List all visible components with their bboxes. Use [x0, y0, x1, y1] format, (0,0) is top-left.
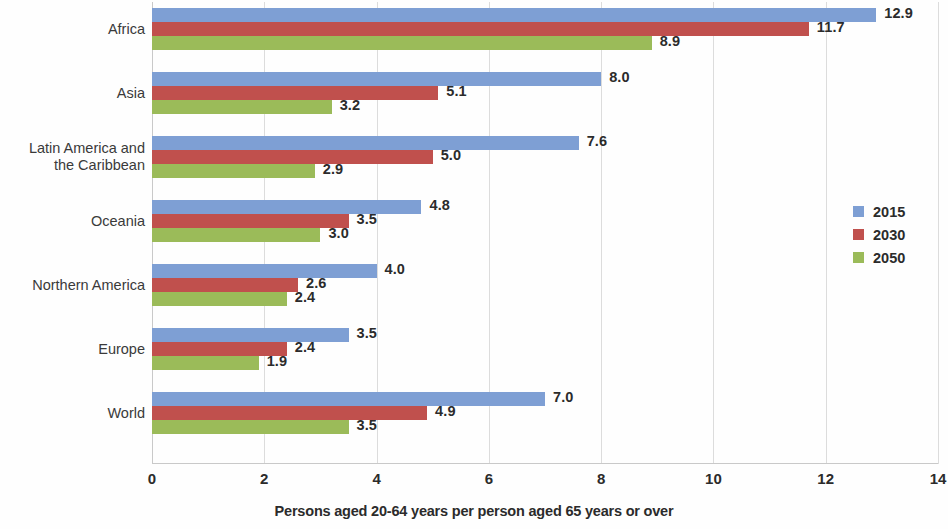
bar-value-label: 3.0 [328, 225, 348, 241]
bar-group: 7.04.93.5 [152, 392, 938, 434]
bar-2050 [152, 292, 287, 306]
legend-item: 2050 [853, 246, 905, 269]
x-tick-14: 14 [930, 470, 947, 487]
x-tick-2: 2 [260, 470, 268, 487]
bar-value-label: 3.5 [357, 211, 377, 227]
bar-2015 [152, 392, 545, 406]
bar-value-label: 8.9 [660, 33, 680, 49]
category-label: Asia [0, 85, 145, 102]
bar-value-label: 5.1 [446, 83, 466, 99]
bar-row: 3.5 [152, 214, 938, 228]
bar-value-label: 4.9 [435, 403, 455, 419]
bar-value-label: 8.0 [609, 69, 629, 85]
bar-value-label: 7.0 [553, 389, 573, 405]
x-tick-10: 10 [705, 470, 722, 487]
category-label: Europe [0, 341, 145, 358]
bar-row: 4.0 [152, 264, 938, 278]
bar-row: 8.9 [152, 36, 938, 50]
bar-2050 [152, 420, 349, 434]
category-label: Latin America and the Caribbean [0, 140, 145, 174]
bar-value-label: 7.6 [587, 133, 607, 149]
bar-2050 [152, 100, 332, 114]
bar-2015 [152, 264, 377, 278]
bar-value-label: 11.7 [817, 19, 845, 35]
bar-value-label: 4.0 [385, 261, 405, 277]
bar-2015 [152, 328, 349, 342]
bar-2030 [152, 22, 809, 36]
legend-label: 2015 [873, 204, 905, 220]
bar-row: 7.0 [152, 392, 938, 406]
legend-swatch-icon [853, 252, 864, 263]
bar-group: 3.52.41.9 [152, 328, 938, 370]
bar-value-label: 4.8 [429, 197, 449, 213]
bar-value-label: 1.9 [267, 353, 287, 369]
bar-value-label: 3.5 [357, 325, 377, 341]
bar-group: 8.05.13.2 [152, 72, 938, 114]
category-label: Northern America [0, 277, 145, 294]
legend-swatch-icon [853, 206, 864, 217]
bar-row: 1.9 [152, 356, 938, 370]
x-tick-12: 12 [817, 470, 834, 487]
bar-row: 3.2 [152, 100, 938, 114]
x-tick-4: 4 [372, 470, 380, 487]
bar-group: 7.65.02.9 [152, 136, 938, 178]
bar-value-label: 5.0 [441, 147, 461, 163]
bar-row: 5.1 [152, 86, 938, 100]
legend-item: 2030 [853, 223, 905, 246]
legend-label: 2030 [873, 227, 905, 243]
bar-value-label: 3.5 [357, 417, 377, 433]
bar-group: 12.911.78.9 [152, 8, 938, 50]
x-tick-0: 0 [148, 470, 156, 487]
plot-area: 12.911.78.98.05.13.27.65.02.94.83.53.04.… [152, 2, 938, 464]
bar-value-label: 2.9 [323, 161, 343, 177]
bar-2015 [152, 136, 579, 150]
bar-value-label: 12.9 [884, 5, 913, 21]
bar-value-label: 2.4 [295, 289, 315, 305]
bar-2030 [152, 150, 433, 164]
bar-row: 3.5 [152, 328, 938, 342]
bar-row: 3.0 [152, 228, 938, 242]
bar-value-label: 2.4 [295, 339, 315, 355]
bar-2015 [152, 200, 421, 214]
bar-2030 [152, 86, 438, 100]
bar-row: 8.0 [152, 72, 938, 86]
bar-2050 [152, 36, 652, 50]
bar-chart: 12.911.78.98.05.13.27.65.02.94.83.53.04.… [0, 0, 948, 529]
category-label: Africa [0, 21, 145, 38]
legend-swatch-icon [853, 229, 864, 240]
bar-row: 7.6 [152, 136, 938, 150]
legend: 201520302050 [853, 200, 905, 269]
bar-row: 4.9 [152, 406, 938, 420]
bar-value-label: 3.2 [340, 97, 360, 113]
bar-2015 [152, 8, 876, 22]
bar-row: 5.0 [152, 150, 938, 164]
bar-2030 [152, 278, 298, 292]
gridline-14 [938, 2, 939, 464]
bar-2050 [152, 356, 259, 370]
bar-2015 [152, 72, 601, 86]
x-tick-6: 6 [485, 470, 493, 487]
x-tick-8: 8 [597, 470, 605, 487]
legend-label: 2050 [873, 250, 905, 266]
bar-row: 2.4 [152, 292, 938, 306]
bar-2050 [152, 164, 315, 178]
category-label: World [0, 405, 145, 422]
bar-2030 [152, 214, 349, 228]
bar-row: 2.6 [152, 278, 938, 292]
bar-2030 [152, 406, 427, 420]
category-label: Oceania [0, 213, 145, 230]
bar-row: 2.9 [152, 164, 938, 178]
bar-group: 4.02.62.4 [152, 264, 938, 306]
bar-row: 3.5 [152, 420, 938, 434]
x-axis-title: Persons aged 20-64 years per person aged… [0, 503, 948, 519]
bar-row: 11.7 [152, 22, 938, 36]
bar-group: 4.83.53.0 [152, 200, 938, 242]
bar-row: 4.8 [152, 200, 938, 214]
legend-item: 2015 [853, 200, 905, 223]
x-axis-line [152, 463, 938, 464]
bar-2050 [152, 228, 320, 242]
